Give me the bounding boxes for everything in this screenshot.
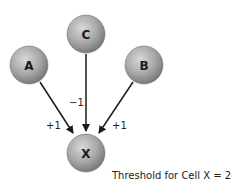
node-c: C <box>67 15 105 53</box>
node-a-label: A <box>24 59 34 73</box>
weight-c-x: −1 <box>69 97 84 108</box>
node-b-label: B <box>139 59 148 73</box>
network-diagram: A C B X +1 −1 +1 <box>0 0 238 185</box>
node-c-label: C <box>82 28 91 42</box>
node-x: X <box>67 134 105 172</box>
weight-b-x: +1 <box>112 120 127 131</box>
node-b: B <box>125 46 163 84</box>
node-x-label: X <box>81 147 91 161</box>
node-a: A <box>10 46 48 84</box>
weight-a-x: +1 <box>46 120 61 131</box>
threshold-caption: Threshold for Cell X = 2 <box>112 170 231 181</box>
